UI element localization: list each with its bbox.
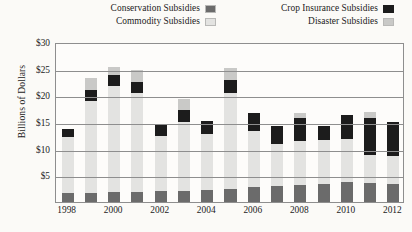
bar-segment [178,99,190,110]
bar-segment [341,139,353,183]
legend-swatch-crop-insurance-icon [383,5,394,13]
bar-segment [364,112,376,118]
bar-segment [85,78,97,90]
legend-item-commodity: Commodity Subsidies [88,15,216,28]
bar-segment [178,110,190,122]
bar-segment [294,118,306,140]
y-tick-label: $30 [8,38,50,48]
x-tick-label: 2004 [186,205,226,215]
legend-item-disaster: Disaster Subsidies [244,15,394,28]
bar-segment [318,184,330,202]
bar-segment [85,90,97,101]
bar-segment [341,115,353,138]
legend-swatch-conservation-icon [205,5,216,13]
bar-segment [248,187,260,202]
bar-segment [131,192,143,202]
bar-segment [224,68,236,81]
legend-column-right: Crop Insurance Subsidies Disaster Subsid… [244,2,394,28]
x-tick-label: 2006 [233,205,273,215]
plot-area [55,43,404,203]
legend-swatch-commodity-icon [205,18,216,26]
x-tick-label: 2010 [326,205,366,215]
x-tick-label: 2008 [279,205,319,215]
legend-item-crop-insurance: Crop Insurance Subsidies [244,2,394,15]
bar-segment [178,122,190,191]
x-tick-label: 2002 [140,205,180,215]
bar-segment [248,131,260,188]
gridline [56,177,403,178]
chart-legend: Conservation Subsidies Commodity Subsidi… [0,2,412,30]
bar-segment [387,184,399,202]
bar-segment [224,93,236,190]
legend-label-crop-insurance: Crop Insurance Subsidies [281,2,378,15]
gridline [56,151,403,152]
x-tick-label: 2012 [372,205,412,215]
legend-label-commodity: Commodity Subsidies [116,15,200,28]
bar-segment [62,129,74,137]
y-tick-label: $10 [8,145,50,155]
bar-segment [131,82,143,93]
bar-segment [108,192,120,202]
bar-segment [62,137,74,193]
bar-segment [155,136,167,191]
bar-segment [201,134,213,190]
bar-segment [271,126,283,144]
bar-segment [318,126,330,140]
bar-segment [155,124,167,137]
bar-segment [62,193,74,202]
bar-segment [364,155,376,184]
x-axis-tick-labels: 19982000200220042006200820102012 [55,205,404,225]
bar-segment [271,186,283,202]
bar-segment [85,101,97,193]
y-tick-label: $20 [8,91,50,101]
bar-segment [178,191,190,202]
x-tick-label: 2000 [93,205,133,215]
bar-segment [294,185,306,202]
bar-segment [224,189,236,202]
bar-segment [364,183,376,202]
bar-segment [248,113,260,130]
bar-segment [387,156,399,184]
bar-segment [294,113,306,118]
bar-segment [341,182,353,202]
gridline [56,97,403,98]
bar-segment [201,190,213,202]
bar-segment [155,191,167,202]
y-tick-label: $5 [8,171,50,181]
legend-item-conservation: Conservation Subsidies [88,2,216,15]
bar-segment [85,193,97,202]
bar-segment [224,80,236,92]
y-axis-title: Billions of Dollars [16,42,27,162]
gridline [56,124,403,125]
x-tick-label: 1998 [47,205,87,215]
bar-segment [201,121,213,134]
y-tick-label: $15 [8,118,50,128]
legend-swatch-disaster-icon [383,18,394,26]
legend-column-left: Conservation Subsidies Commodity Subsidi… [88,2,216,28]
legend-label-conservation: Conservation Subsidies [111,2,200,15]
y-tick-label: $25 [8,65,50,75]
bar-segment [108,75,120,86]
subsidies-stacked-bar-chart: Conservation Subsidies Commodity Subsidi… [0,0,412,232]
legend-label-disaster: Disaster Subsidies [308,15,378,28]
gridline [56,71,403,72]
